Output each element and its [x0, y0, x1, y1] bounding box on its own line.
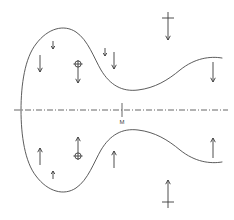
axis-labels-group: M: [120, 119, 125, 125]
centerline-axis-group: [14, 103, 228, 117]
field-diagram-svg: M: [0, 0, 234, 220]
figure-canvas: M: [0, 0, 234, 220]
arrow-lower-left-up: [38, 148, 43, 165]
arrow-lower-left-small-up: [51, 171, 55, 179]
arrow-upper-center-down: [112, 52, 117, 69]
arrow-upper-mid-circle-down: [73, 60, 82, 83]
arrow-upper-center-small-down: [103, 48, 107, 56]
arrow-upper-left-small-down: [51, 41, 55, 49]
upper-boundary-curve: [21, 28, 222, 110]
arrow-lower-center-up: [112, 151, 117, 168]
arrow-lower-mid-circle-up: [73, 137, 82, 160]
arrow-lower-right-up: [211, 138, 216, 158]
arrow-upper-left-down: [38, 55, 43, 72]
arrow-top-outer-crossed-down: [162, 12, 174, 40]
axis-center-label: M: [120, 119, 125, 125]
arrow-bottom-outer-crossed-up: [162, 180, 174, 208]
arrow-upper-right-down: [211, 62, 216, 82]
